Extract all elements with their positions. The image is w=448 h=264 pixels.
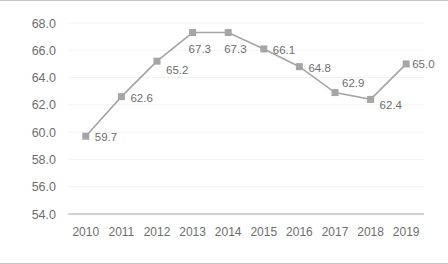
- x-axis-tick-labels: 2010201120122013201420152016201720182019: [72, 225, 419, 239]
- data-point-label: 66.1: [273, 44, 295, 56]
- data-point-label: 62.4: [380, 99, 403, 111]
- y-axis-tick-label: 56.0: [32, 180, 56, 194]
- series-marker: [296, 63, 303, 70]
- data-point-labels: 59.762.665.267.367.366.164.862.962.465.0: [95, 43, 435, 144]
- chart-canvas: 54.056.058.060.062.064.066.068.0 2010201…: [0, 1, 448, 264]
- line-chart-figure: 54.056.058.060.062.064.066.068.0 2010201…: [0, 0, 448, 264]
- data-point-label: 62.9: [342, 77, 364, 89]
- y-axis-tick-label: 60.0: [32, 126, 56, 140]
- x-axis-tick-label: 2019: [393, 225, 420, 239]
- series-marker: [118, 93, 125, 100]
- x-axis-tick-label: 2013: [179, 225, 206, 239]
- series-marker: [403, 60, 410, 67]
- x-axis-tick-label: 2014: [215, 225, 242, 239]
- data-point-label: 67.3: [189, 43, 211, 55]
- data-point-label: 62.6: [130, 92, 152, 104]
- x-axis-tick-label: 2017: [322, 225, 349, 239]
- x-axis-tick-label: 2015: [250, 225, 277, 239]
- y-axis-tick-label: 58.0: [32, 153, 56, 167]
- series-marker: [332, 89, 339, 96]
- y-axis-tick-label: 66.0: [32, 44, 56, 58]
- data-point-label: 59.7: [95, 131, 117, 143]
- x-axis-tick-label: 2010: [72, 225, 99, 239]
- series-marker: [225, 29, 232, 36]
- y-axis-tick-label: 64.0: [32, 71, 56, 85]
- series-marker: [189, 29, 196, 36]
- data-point-label: 67.3: [224, 43, 246, 55]
- data-point-label: 65.0: [412, 58, 434, 70]
- y-axis-tick-label: 68.0: [32, 17, 56, 31]
- x-axis-tick-label: 2012: [144, 225, 171, 239]
- series-marker: [367, 96, 374, 103]
- x-axis-tick-label: 2011: [108, 225, 134, 239]
- series-marker: [260, 45, 267, 52]
- data-point-label: 65.2: [166, 64, 188, 76]
- x-axis-tick-label: 2016: [286, 225, 313, 239]
- data-point-label: 64.8: [308, 62, 330, 74]
- y-axis-tick-label: 62.0: [32, 98, 56, 112]
- y-axis-tick-labels: 54.056.058.060.062.064.066.068.0: [32, 17, 56, 222]
- y-axis-tick-label: 54.0: [32, 208, 56, 222]
- series-marker: [154, 58, 161, 65]
- x-axis-tick-label: 2018: [357, 225, 384, 239]
- series-marker: [82, 133, 89, 140]
